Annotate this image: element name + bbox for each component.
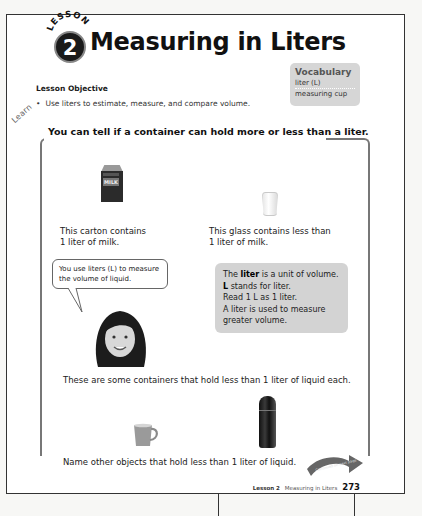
- page-number: 273: [342, 482, 360, 492]
- speech-bubble-tail: [66, 288, 86, 314]
- vocabulary-item: liter (L): [295, 78, 355, 89]
- text: is a unit of volume.: [259, 270, 338, 279]
- glass-caption-line: 1 liter of milk.: [209, 237, 349, 248]
- girl-photo: [88, 305, 152, 369]
- term-liter: liter: [240, 270, 259, 279]
- page-footer: Lesson 2 Measuring in Liters 273: [253, 482, 360, 492]
- text: stands for liter.: [228, 282, 291, 291]
- page-edge-line: [218, 494, 219, 516]
- lesson-number: 2: [63, 36, 78, 60]
- objective-bullet: Use liters to estimate, measure, and com…: [36, 99, 250, 108]
- mug-image: [131, 423, 161, 447]
- definition-line: The liter is a unit of volume.: [223, 269, 340, 281]
- carton-caption-line: 1 liter of milk.: [60, 237, 180, 248]
- svg-text:LESSON: LESSON: [45, 9, 92, 32]
- speech-bubble: You use liters (L) to measure the volume…: [52, 259, 168, 289]
- text: The: [223, 270, 240, 279]
- thermos-image: [259, 396, 276, 448]
- vocabulary-heading: Vocabulary: [295, 66, 355, 78]
- page-title: Measuring in Liters: [90, 28, 346, 56]
- glass-caption-line: This glass contains less than: [209, 226, 349, 237]
- containers-caption: These are some containers that hold less…: [63, 375, 393, 386]
- lesson-objective: Lesson Objective Use liters to estimate,…: [36, 84, 250, 108]
- definition-line: L stands for liter.: [223, 281, 340, 293]
- definition-line: Read 1 L as 1 liter.: [223, 292, 340, 304]
- carton-label: MILK: [103, 178, 119, 186]
- page-edge-line: [354, 494, 355, 516]
- carton-caption: This carton contains 1 liter of milk.: [60, 226, 180, 248]
- glass-caption: This glass contains less than 1 liter of…: [209, 226, 349, 248]
- footer-title: Measuring in Liters: [285, 485, 337, 491]
- lesson-word: LESSON: [45, 9, 92, 32]
- liter-definition-box: The liter is a unit of volume. L stands …: [215, 263, 348, 333]
- glass-of-milk-image: [262, 192, 278, 216]
- definition-line: A liter is used to measure: [223, 304, 340, 316]
- vocabulary-item: measuring cup: [295, 89, 355, 99]
- learn-heading: You can tell if a container can hold mor…: [45, 126, 372, 137]
- definition-line: greater volume.: [223, 315, 340, 327]
- carton-caption-line: This carton contains: [60, 226, 180, 237]
- footer-lesson: Lesson 2: [253, 485, 280, 491]
- vocabulary-box: Vocabulary liter (L) measuring cup: [290, 63, 360, 106]
- milk-carton-image: MILK: [101, 165, 123, 201]
- objective-heading: Lesson Objective: [36, 84, 250, 93]
- continue-arrow-icon: Continued on next page: [305, 447, 365, 477]
- name-objects-prompt: Name other objects that hold less than 1…: [63, 457, 323, 468]
